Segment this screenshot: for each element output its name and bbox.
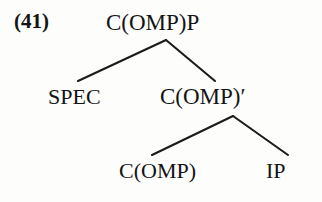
branch-root-to-spec	[78, 40, 166, 81]
branch-cbar-to-comp	[152, 116, 233, 155]
tree-node-comp: C(OMP)	[119, 160, 196, 182]
tree-node-c-bar: C(OMP)′	[160, 85, 246, 108]
syntax-tree-figure: (41) C(OMP)P SPEC C(OMP)′ C(OMP) IP	[0, 0, 322, 202]
tree-node-root: C(OMP)P	[106, 11, 199, 34]
example-number: (41)	[14, 11, 49, 32]
branch-cbar-to-ip	[233, 116, 288, 155]
tree-node-spec: SPEC	[48, 86, 101, 108]
tree-node-ip: IP	[266, 160, 286, 182]
branch-root-to-cbar	[166, 40, 215, 81]
